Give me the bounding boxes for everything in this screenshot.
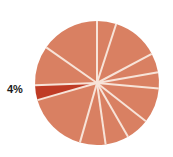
slice-label-4-percent: 4% [7, 84, 23, 95]
pie-chart-figure: 4% [0, 0, 173, 157]
pie-chart-svg [0, 0, 173, 157]
